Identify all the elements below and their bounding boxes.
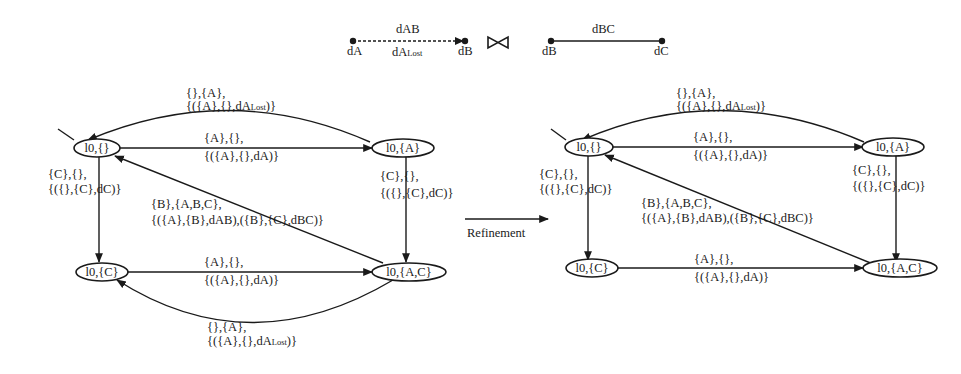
legend: dAB dA dB dALost dBC dB dC: [347, 22, 669, 59]
state-label: l0,{C}: [85, 265, 118, 279]
channel-bc-from: dB: [542, 44, 557, 58]
state-label: l0,{A}: [386, 141, 420, 155]
left-automaton: {},{A}, {({A},{},dALost)} {A},{}, {({A},…: [48, 86, 454, 348]
state-label: l0,{}: [577, 140, 602, 154]
edge-label: {({A},{},dA)}: [204, 149, 279, 163]
edge-label: {A},{},: [694, 252, 733, 266]
edge-label: {B},{A,B,C},: [151, 197, 222, 211]
edge-label: {({},{C},dC)}: [380, 186, 454, 200]
channel-ab: dAB dA dB dALost: [347, 22, 473, 59]
edge-label: {({A},{B},dAB),({B},{C},dBC)}: [641, 211, 814, 225]
state-label: l0,{A,C}: [386, 265, 431, 279]
state-node: l0,{}: [565, 138, 613, 156]
edge-label: {({},{C},dC)}: [48, 182, 122, 196]
state-node: l0,{A,C}: [863, 259, 937, 277]
edge-label: {({A},{},dALost)}: [207, 334, 297, 348]
edge-label: {A},{},: [204, 255, 243, 269]
state-label: l0,{A,C}: [877, 261, 922, 275]
edge-label: {A},{},: [693, 130, 732, 144]
initial-state-arrow: [551, 129, 566, 140]
edge-label: {C},{},: [380, 169, 419, 183]
edge-label: {({A},{},dALost)}: [186, 99, 276, 113]
state-label: l0,{A}: [876, 140, 910, 154]
edge-label: {C},{},: [852, 163, 891, 177]
channel-ab-label: dAB: [396, 22, 420, 36]
edge-label: {A},{},: [204, 131, 243, 145]
channel-ab-to: dB: [458, 44, 473, 58]
initial-state-arrow: [58, 129, 74, 140]
edge-label: {({A},{},dA)}: [693, 148, 768, 162]
diagram-canvas: dAB dA dB dALost dBC dB dC {},{A}, {({A}…: [0, 0, 961, 374]
edge-label: {({A},{B},dAB),({B},{C},dBC)}: [151, 213, 324, 227]
channel-bc: dBC dB dC: [542, 22, 669, 58]
right-automaton: {},{A}, {({A},{},dALost)} {A},{}, {({A},…: [539, 86, 937, 284]
refinement-arrow: Refinement: [465, 219, 548, 240]
channel-bc-to: dC: [654, 44, 669, 58]
edge-label: {B},{A,B,C},: [641, 196, 712, 210]
edge-label: {},{A},: [207, 320, 246, 334]
edge-label: {({A},{},dA)}: [694, 270, 769, 284]
state-node: l0,{A}: [862, 138, 924, 156]
channel-ab-lost-label: dALost: [392, 45, 423, 59]
state-node: l0,{A}: [372, 139, 434, 157]
edge-label: {C},{},: [539, 167, 578, 181]
channel-ab-from: dA: [347, 44, 362, 58]
state-label: l0,{C}: [575, 261, 608, 275]
edge-label: {({},{C},dC)}: [852, 179, 926, 193]
state-node: l0,{C}: [76, 263, 128, 281]
state-node: l0,{C}: [566, 259, 618, 277]
edge-label: {({A},{},dA)}: [204, 273, 279, 287]
refinement-label: Refinement: [467, 226, 526, 240]
edge-label: {({},{C},dC)}: [539, 182, 613, 196]
channel-bc-label: dBC: [592, 22, 615, 36]
edge-label: {},{A},: [186, 86, 225, 100]
join-symbol-icon: [488, 37, 508, 48]
edge-label: {},{A},: [676, 86, 715, 100]
edge-label: {C},{},: [48, 167, 87, 181]
state-node: l0,{A,C}: [372, 263, 446, 281]
edge-label: {({A},{},dALost)}: [676, 99, 766, 113]
state-node: l0,{}: [74, 139, 120, 157]
state-label: l0,{}: [85, 141, 110, 155]
